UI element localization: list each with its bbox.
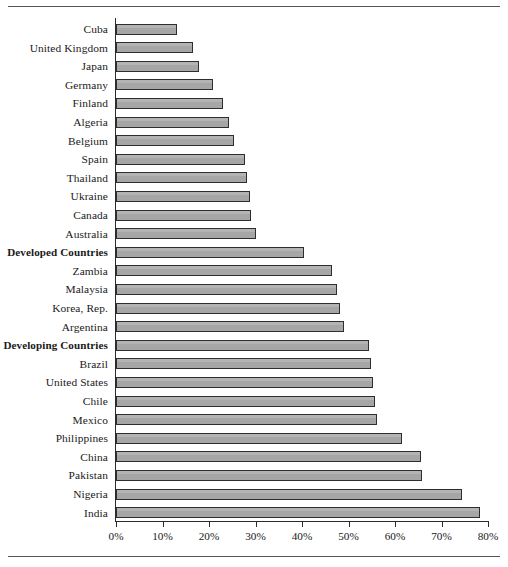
- chart-row: Developed Countries: [0, 243, 508, 262]
- category-label: Ukraine: [0, 187, 108, 206]
- chart-row: Japan: [0, 57, 508, 76]
- chart-row: Argentina: [0, 318, 508, 337]
- bottom-horizontal-rule: [8, 556, 500, 557]
- x-axis-tick: [488, 521, 489, 527]
- x-axis-tick: [395, 521, 396, 527]
- chart-row: Chile: [0, 392, 508, 411]
- x-axis-tick: [116, 521, 117, 527]
- bar: [116, 321, 344, 332]
- category-label: Spain: [0, 150, 108, 169]
- category-label: Mexico: [0, 411, 108, 430]
- chart-row: Philippines: [0, 429, 508, 448]
- x-axis-tick-label: 70%: [419, 530, 465, 542]
- bar: [116, 284, 337, 295]
- x-axis-tick-label: 0%: [93, 530, 139, 542]
- bar: [116, 358, 371, 369]
- category-label: Brazil: [0, 355, 108, 374]
- bar: [116, 98, 223, 109]
- bar: [116, 172, 247, 183]
- category-label: Belgium: [0, 132, 108, 151]
- chart-row: United Kingdom: [0, 39, 508, 58]
- category-label: Chile: [0, 392, 108, 411]
- category-label: Thailand: [0, 169, 108, 188]
- bar: [116, 79, 213, 90]
- category-label: United States: [0, 373, 108, 392]
- x-axis-tick-label: 40%: [279, 530, 325, 542]
- category-label: Korea, Rep.: [0, 299, 108, 318]
- bar: [116, 191, 250, 202]
- bar: [116, 414, 377, 425]
- category-label: Finland: [0, 94, 108, 113]
- chart-row: Spain: [0, 150, 508, 169]
- bar: [116, 24, 177, 35]
- x-axis-tick-label: 20%: [186, 530, 232, 542]
- category-label: China: [0, 448, 108, 467]
- category-label: Nigeria: [0, 485, 108, 504]
- chart-row: China: [0, 448, 508, 467]
- chart-row: Cuba: [0, 20, 508, 39]
- x-axis-tick-label: 30%: [233, 530, 279, 542]
- chart-row: Algeria: [0, 113, 508, 132]
- bar: [116, 228, 256, 239]
- chart-row: Malaysia: [0, 280, 508, 299]
- bar: [116, 507, 480, 518]
- category-label: Canada: [0, 206, 108, 225]
- chart-row: Finland: [0, 94, 508, 113]
- bar: [116, 433, 402, 444]
- chart-plot-area: CubaUnited KingdomJapanGermanyFinlandAlg…: [0, 0, 508, 530]
- bar: [116, 377, 373, 388]
- category-label: Australia: [0, 225, 108, 244]
- chart-row: United States: [0, 373, 508, 392]
- category-label: Cuba: [0, 20, 108, 39]
- chart-row: Belgium: [0, 132, 508, 151]
- bar: [116, 489, 462, 500]
- bar: [116, 451, 421, 462]
- chart-row: Pakistan: [0, 466, 508, 485]
- bar: [116, 303, 340, 314]
- chart-row: Australia: [0, 225, 508, 244]
- bar: [116, 135, 234, 146]
- x-axis-tick: [349, 521, 350, 527]
- figure-container: CubaUnited KingdomJapanGermanyFinlandAlg…: [0, 0, 508, 567]
- bar: [116, 265, 332, 276]
- category-label: Japan: [0, 57, 108, 76]
- bar: [116, 470, 422, 481]
- category-label: Philippines: [0, 429, 108, 448]
- chart-row: Nigeria: [0, 485, 508, 504]
- bar: [116, 396, 375, 407]
- x-axis-tick: [302, 521, 303, 527]
- x-axis-tick-label: 60%: [372, 530, 418, 542]
- category-label: Malaysia: [0, 280, 108, 299]
- bar: [116, 42, 193, 53]
- bar: [116, 340, 369, 351]
- category-label: India: [0, 504, 108, 523]
- bar: [116, 247, 304, 258]
- chart-row: India: [0, 504, 508, 523]
- category-label: Pakistan: [0, 466, 108, 485]
- category-label: Developing Countries: [0, 336, 108, 355]
- bar: [116, 117, 229, 128]
- chart-row: Mexico: [0, 411, 508, 430]
- x-axis-tick: [209, 521, 210, 527]
- chart-row: Zambia: [0, 262, 508, 281]
- x-axis-tick: [256, 521, 257, 527]
- category-label: Zambia: [0, 262, 108, 281]
- category-label: Developed Countries: [0, 243, 108, 262]
- chart-row: Thailand: [0, 169, 508, 188]
- chart-row: Germany: [0, 76, 508, 95]
- chart-row: Developing Countries: [0, 336, 508, 355]
- x-axis-tick-label: 80%: [465, 530, 508, 542]
- x-axis-tick-label: 10%: [140, 530, 186, 542]
- x-axis-tick-label: 50%: [326, 530, 372, 542]
- category-label: Germany: [0, 76, 108, 95]
- chart-row: Brazil: [0, 355, 508, 374]
- category-label: United Kingdom: [0, 39, 108, 58]
- chart-row: Korea, Rep.: [0, 299, 508, 318]
- bar: [116, 154, 245, 165]
- x-axis-tick: [163, 521, 164, 527]
- chart-row: Ukraine: [0, 187, 508, 206]
- bar: [116, 210, 251, 221]
- x-axis-tick: [442, 521, 443, 527]
- bar: [116, 61, 199, 72]
- category-label: Algeria: [0, 113, 108, 132]
